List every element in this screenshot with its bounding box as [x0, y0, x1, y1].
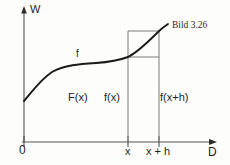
- origin-label: 0: [19, 144, 26, 156]
- function-curve-f: [24, 24, 168, 101]
- figure-container: W D 0 x x + h f F(x) f(x) f(x+h) Bild 3.…: [0, 0, 230, 165]
- tick-label-x: x: [125, 146, 131, 157]
- value-label-f-x: f(x): [104, 92, 120, 103]
- tick-label-x-plus-h: x + h: [146, 146, 170, 157]
- y-axis-arrowhead: [21, 6, 27, 14]
- area-label-F-x: F(x): [68, 92, 88, 103]
- y-axis-label: W: [30, 4, 40, 15]
- curve-label-f: f: [76, 49, 79, 59]
- figure-caption: Bild 3.26: [172, 21, 207, 31]
- value-label-f-x-plus-h: f(x+h): [160, 92, 188, 103]
- x-axis-label: D: [208, 146, 217, 158]
